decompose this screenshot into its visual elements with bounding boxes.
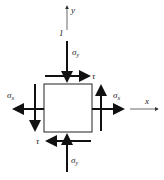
tau-top-label: τ — [92, 71, 96, 81]
sigma-y-bottom-label: σy — [71, 155, 78, 166]
sigma-y-top-label: σy — [72, 47, 79, 58]
marker-label: 1 — [59, 28, 64, 38]
sigma-x-right-label: σx — [113, 90, 120, 101]
stress-element-diagram: y 1 x σy τ σy τ σx σx — [0, 0, 164, 180]
x-axis-label: x — [144, 96, 149, 106]
y-axis-label: y — [70, 5, 75, 15]
stress-element — [44, 84, 92, 132]
sigma-x-left-label: σx — [7, 90, 14, 101]
tau-bottom-label: τ — [36, 136, 40, 146]
